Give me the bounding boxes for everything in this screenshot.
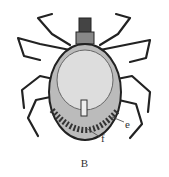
figure-caption: B	[0, 157, 169, 169]
label-f: f	[101, 132, 105, 144]
tick-illustration	[0, 0, 169, 177]
label-e: e	[125, 118, 130, 130]
